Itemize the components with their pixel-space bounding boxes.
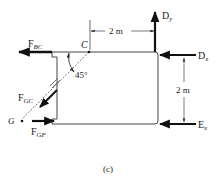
dimension-vertical: 2 m xyxy=(176,58,190,122)
angle-label: 45° xyxy=(75,70,88,80)
point-c-label: C xyxy=(81,39,88,50)
free-body-diagram: C G 45° FBC FGC FGF Dy Dx Ex 2 m 2 m (c) xyxy=(0,0,222,186)
force-ex-label: Ex xyxy=(198,119,208,132)
figure-caption: (c) xyxy=(103,164,113,174)
force-dy-label: Dy xyxy=(162,10,173,23)
point-g-label: G xyxy=(8,116,15,126)
dimension-horizontal-label: 2 m xyxy=(109,26,123,36)
force-dx-label: Dx xyxy=(198,50,209,63)
member-gc-line xyxy=(22,52,89,119)
point-g-marker xyxy=(21,120,24,123)
force-fgc-label: FGC xyxy=(18,92,34,105)
point-c-marker xyxy=(88,51,91,54)
dimension-vertical-label: 2 m xyxy=(176,85,190,95)
angle-arc xyxy=(69,53,74,72)
dimension-horizontal: 2 m xyxy=(90,20,154,50)
frame-body xyxy=(52,52,158,124)
force-fgf-label: FGF xyxy=(31,126,47,139)
force-fbc-label: FBC xyxy=(28,38,43,51)
